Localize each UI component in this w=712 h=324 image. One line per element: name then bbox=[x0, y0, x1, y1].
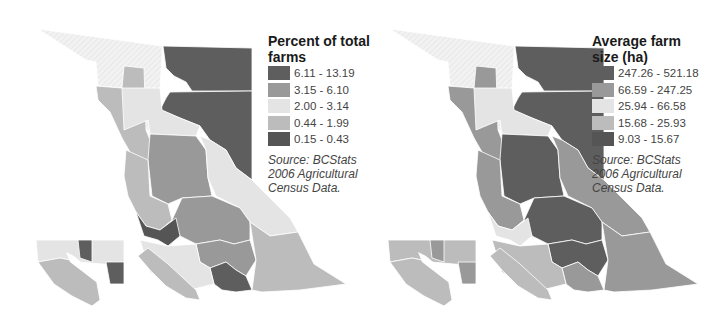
legend-item: 25.94 - 66.58 bbox=[592, 98, 702, 115]
legend-swatch bbox=[268, 66, 290, 80]
inset-map bbox=[36, 240, 124, 306]
inset-region bbox=[458, 262, 476, 284]
legend-item: 9.03 - 15.67 bbox=[592, 131, 702, 148]
legend-item: 15.68 - 25.93 bbox=[592, 115, 702, 132]
map-panel-average-farm-size: Average farm size (ha) 247.26 - 521.1866… bbox=[352, 0, 708, 324]
legend-range-label: 25.94 - 66.58 bbox=[618, 100, 686, 112]
legend-range-label: 9.03 - 15.67 bbox=[618, 133, 679, 145]
region-northeast-top bbox=[163, 46, 252, 91]
legend-swatch bbox=[268, 83, 290, 97]
legend-range-label: 6.11 - 13.19 bbox=[294, 67, 355, 79]
legend-range-label: 3.15 - 6.10 bbox=[294, 84, 349, 96]
legend-swatch bbox=[592, 83, 614, 97]
legend-swatch bbox=[268, 116, 290, 130]
legend-range-label: 0.44 - 1.99 bbox=[294, 117, 349, 129]
inset-region bbox=[390, 258, 452, 306]
legend-rows: 247.26 - 521.1866.59 - 247.2525.94 - 66.… bbox=[592, 65, 702, 148]
legend-swatch bbox=[592, 132, 614, 146]
region-kootenay-east bbox=[602, 222, 698, 292]
legend-range-label: 2.00 - 3.14 bbox=[294, 100, 349, 112]
legend-swatch bbox=[592, 116, 614, 130]
legend-range-label: 66.59 - 247.25 bbox=[618, 84, 692, 96]
inset-region bbox=[38, 258, 100, 306]
region-central-interior bbox=[500, 134, 564, 204]
legend-item: 66.59 - 247.25 bbox=[592, 82, 702, 99]
legend-swatch bbox=[268, 132, 290, 146]
legend-range-label: 15.68 - 25.93 bbox=[618, 117, 686, 129]
legend-swatch bbox=[592, 99, 614, 113]
legend-swatch bbox=[268, 99, 290, 113]
inset-map bbox=[388, 240, 476, 306]
source-note: Source: BCStats 2006 Agricultural Census… bbox=[592, 153, 702, 195]
region-kootenay-east bbox=[250, 222, 346, 292]
legend-swatch bbox=[592, 66, 614, 80]
legend-title: Average farm size (ha) bbox=[592, 33, 702, 65]
legend-range-label: 247.26 - 521.18 bbox=[618, 67, 699, 79]
region-central-interior bbox=[148, 134, 212, 204]
map-panel-percent-farms: Percent of total farms 6.11 - 13.193.15 … bbox=[0, 0, 356, 324]
legend: Average farm size (ha) 247.26 - 521.1866… bbox=[592, 33, 702, 195]
legend-range-label: 0.15 - 0.43 bbox=[294, 133, 349, 145]
legend-item: 247.26 - 521.18 bbox=[592, 65, 702, 82]
region-northeast-top bbox=[515, 46, 604, 91]
inset-region bbox=[106, 262, 124, 284]
